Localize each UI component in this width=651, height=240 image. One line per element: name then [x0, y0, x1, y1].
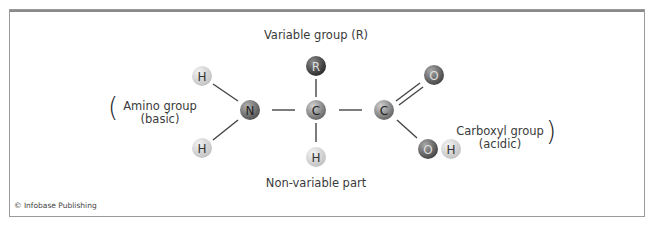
atom-o2: O [418, 139, 438, 159]
atom-symbol: H [197, 70, 206, 84]
atom-r: R [306, 56, 326, 76]
atom-h2: H [192, 138, 212, 158]
bond-c2-o2 [397, 120, 417, 138]
atom-symbol: C [312, 104, 320, 118]
atom-c-carboxyl: C [374, 100, 394, 120]
non-variable-part-label: Non-variable part [258, 177, 374, 190]
atom-n: N [240, 100, 260, 120]
amino-group-subtitle: (basic) [120, 113, 200, 126]
atom-symbol: H [197, 142, 206, 156]
atom-h1: H [192, 66, 212, 86]
carboxyl-close-paren: ) [546, 118, 556, 144]
variable-group-label: Variable group (R) [258, 29, 374, 42]
atom-symbol: N [246, 104, 255, 118]
carboxyl-group-label: Carboxyl group (acidic) [456, 125, 544, 151]
atom-symbol: H [311, 151, 320, 165]
carboxyl-group-subtitle: (acidic) [456, 138, 544, 151]
bond-h1-n [213, 84, 238, 101]
atom-c-alpha: C [306, 100, 326, 120]
atom-symbol: O [423, 143, 432, 157]
copyright-credit: © Infobase Publishing [14, 201, 97, 210]
atom-symbol: R [312, 60, 320, 74]
atom-o1: O [424, 65, 444, 85]
atom-h3: H [306, 147, 326, 167]
atom-symbol: O [429, 69, 438, 83]
amino-group-label: Amino group (basic) [120, 100, 200, 126]
atom-symbol: C [380, 104, 388, 118]
bond-h2-n [213, 120, 238, 140]
amino-open-paren: ( [108, 94, 118, 120]
atom-symbol: H [446, 143, 455, 157]
